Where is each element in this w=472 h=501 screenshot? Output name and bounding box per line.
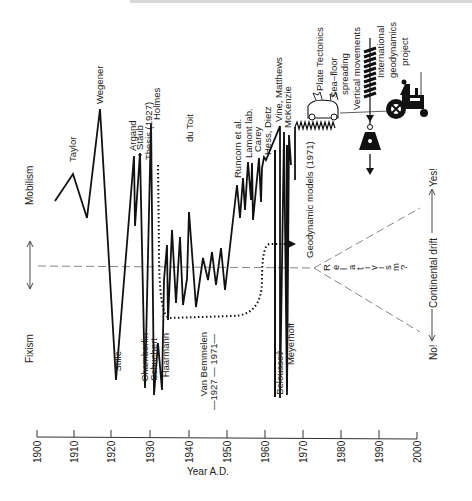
tick-1920: 1920 <box>106 440 117 463</box>
tick-1990: 1990 <box>374 440 385 463</box>
tick-1980: 1980 <box>336 440 347 463</box>
tick-1970: 1970 <box>298 440 309 463</box>
label-seafloor-2: spreading <box>339 53 350 95</box>
label-igp-1: International <box>375 26 386 78</box>
spring-zigzag <box>295 122 335 129</box>
neutral-baseline <box>38 266 314 268</box>
tractor-icon <box>386 72 428 119</box>
label-taylor: Taylor <box>67 137 78 162</box>
label-dutoit: du Toit <box>184 114 195 142</box>
double-arrow-icon <box>27 241 33 289</box>
label-holmes: Holmes <box>151 88 162 120</box>
tick-1950: 1950 <box>222 440 233 463</box>
weight-icon <box>359 132 381 175</box>
label-haarmann: Haarmann <box>160 333 171 377</box>
label-yes: Yes! <box>428 168 439 187</box>
label-wegener: Wegener <box>94 66 105 104</box>
bullet-icon <box>149 164 151 166</box>
label-seafloor-1: Sea–floor <box>328 57 339 98</box>
rel-letter: ? <box>398 265 409 270</box>
tick-1930: 1930 <box>145 440 156 463</box>
relativism-text: R e l a t i v i s m ? <box>321 263 409 271</box>
continental-drift-diagram: 1900 1910 1920 1930 1940 1950 1960 1970 … <box>0 0 472 501</box>
tick-1960: 1960 <box>260 440 271 463</box>
label-mckenzie: McKenzie <box>282 86 293 128</box>
label-van-bemmelen-dates: —1927 — 1971— <box>208 334 219 411</box>
tick-2000: 2000 <box>412 440 423 463</box>
label-hess: Hess, Dietz <box>262 106 273 155</box>
geodynamic-arrow-icon <box>288 240 296 248</box>
label-vertical-movements: Vertical movements <box>351 27 362 110</box>
x-axis <box>37 430 417 439</box>
car-icon <box>308 92 390 120</box>
label-schuchert: Schuchert <box>148 338 159 381</box>
label-igp-3: project <box>399 37 410 66</box>
label-beloussov: Beloussov <box>274 351 285 395</box>
tick-1940: 1940 <box>184 440 195 463</box>
label-geodynamic-models: Geodynamic models (1971) <box>304 141 315 258</box>
label-stille: Stille <box>112 351 123 372</box>
label-igp-2: geodynamics <box>387 22 398 78</box>
tick-1910: 1910 <box>69 440 80 463</box>
label-plate-tectonics: Plate Tectonics <box>314 27 325 91</box>
x-tick-labels: 1900 1910 1920 1930 1940 1950 1960 1970 … <box>32 440 423 463</box>
label-continental-drift: Continental drift <box>428 238 439 308</box>
x-axis-label: Year A.D. <box>187 466 229 477</box>
fixism-label: Fixism <box>24 334 35 363</box>
van-bemmelen-dotted-path <box>158 165 290 318</box>
mobilism-label: Mobilism <box>24 166 35 205</box>
label-runcorn: Runcorn et al. <box>232 119 243 178</box>
label-meyerhoff: Meyerhoff <box>285 323 296 365</box>
label-no: No! <box>428 344 439 360</box>
tick-1900: 1900 <box>32 440 43 463</box>
